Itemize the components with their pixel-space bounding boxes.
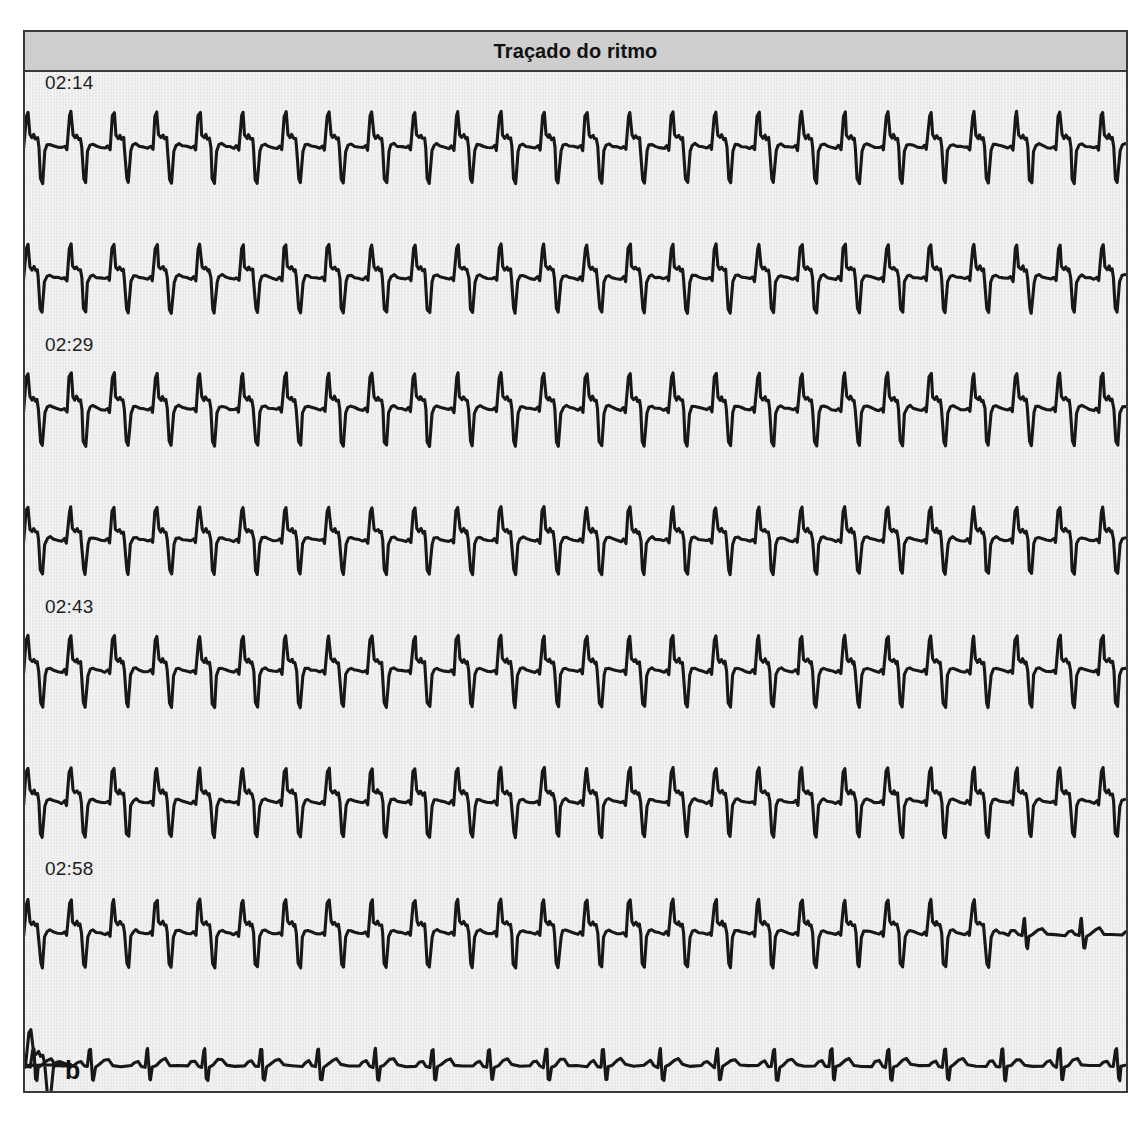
ecg-waveform (25, 627, 1126, 727)
ecg-waveform (25, 496, 1126, 596)
strip-area: 02:1402:2902:4302:5803:1303:2703:4203:57… (25, 72, 1126, 1091)
ecg-waveform (25, 1020, 1126, 1091)
panel-header: Traçado do ritmo (25, 32, 1126, 72)
ecg-figure: Traçado do ritmo 02:1402:2902:4302:5803:… (0, 0, 1146, 1129)
ecg-waveform (25, 365, 1126, 465)
strip-time-label: 02:29 (45, 334, 94, 356)
strip-time-label: 02:14 (45, 72, 94, 94)
ecg-waveform (25, 889, 1126, 989)
ecg-waveform (25, 234, 1126, 334)
panel-letter: b (65, 1056, 80, 1085)
strip-time-label: 02:58 (45, 858, 94, 880)
strip-time-label: 02:43 (45, 596, 94, 618)
ecg-waveform (25, 103, 1126, 203)
ecg-waveform (25, 758, 1126, 858)
page-title: Traçado do ritmo (494, 40, 658, 63)
rhythm-strip-panel: Traçado do ritmo 02:1402:2902:4302:5803:… (23, 30, 1128, 1093)
